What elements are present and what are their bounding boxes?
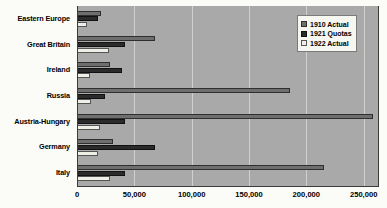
- bar: [77, 62, 110, 67]
- axis-line-left: [77, 6, 78, 187]
- category-label: Great Britain: [0, 40, 70, 49]
- legend-swatch-icon: [301, 40, 307, 46]
- legend-label: 1922 Actual: [310, 40, 349, 47]
- bar: [77, 99, 91, 104]
- legend-label: 1910 Actual: [310, 21, 349, 28]
- bar: [77, 16, 98, 21]
- bar: [77, 94, 105, 99]
- gridline: [192, 6, 193, 186]
- bar: [77, 73, 90, 78]
- category-label: Austria-Hungary: [0, 117, 70, 126]
- bar: [77, 171, 125, 176]
- legend-label: 1921 Quotas: [310, 30, 352, 37]
- legend-item-1922-actual: 1922 Actual: [301, 39, 352, 48]
- value-axis-tick-label: 250,000: [350, 190, 377, 199]
- value-axis-tick-label: 50,000: [123, 190, 146, 199]
- category-label: Ireland: [0, 65, 70, 74]
- category-label: Italy: [0, 168, 70, 177]
- bar: [77, 139, 113, 144]
- axis-line-bottom: [77, 186, 379, 187]
- legend-item-1910-actual: 1910 Actual: [301, 20, 352, 29]
- bar: [77, 22, 87, 27]
- category-label: Russia: [0, 91, 70, 100]
- value-axis-tick-label: 0: [75, 190, 79, 199]
- category-label: Germany: [0, 142, 70, 151]
- gridline: [134, 6, 135, 186]
- value-axis-tick-label: 150,000: [235, 190, 262, 199]
- bar-chart: Eastern EuropeGreat BritainIrelandRussia…: [0, 0, 387, 208]
- legend-item-1921-quotas: 1921 Quotas: [301, 29, 352, 38]
- bar: [77, 88, 290, 93]
- gridline: [249, 6, 250, 186]
- bar: [77, 68, 122, 73]
- bar: [77, 165, 324, 170]
- chart-legend: 1910 Actual 1921 Quotas 1922 Actual: [297, 15, 357, 52]
- bar: [77, 114, 373, 119]
- legend-swatch-icon: [301, 31, 307, 37]
- bar: [77, 145, 155, 150]
- bar: [77, 176, 110, 181]
- bar: [77, 11, 101, 16]
- category-axis-labels: Eastern EuropeGreat BritainIrelandRussia…: [0, 6, 74, 186]
- bar: [77, 125, 100, 130]
- bar: [77, 151, 98, 156]
- value-axis-tick-label: 200,000: [293, 190, 320, 199]
- category-label: Eastern Europe: [0, 14, 70, 23]
- bar: [77, 119, 125, 124]
- bar: [77, 48, 109, 53]
- bar: [77, 36, 155, 41]
- bar: [77, 42, 125, 47]
- legend-swatch-icon: [301, 21, 307, 27]
- value-axis-tick-label: 100,000: [178, 190, 205, 199]
- gridline: [364, 6, 365, 186]
